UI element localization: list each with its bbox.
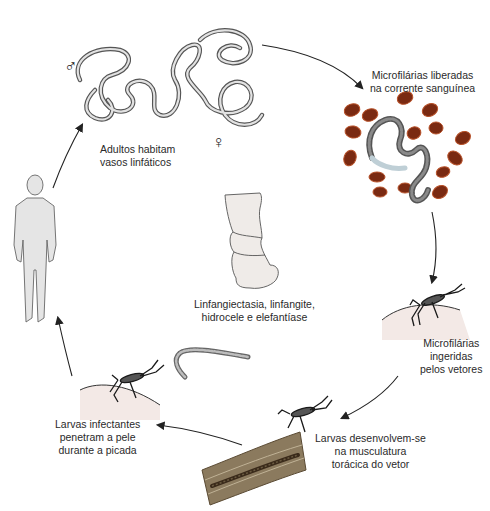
arrow-ingested-to-develop bbox=[342, 376, 398, 418]
red-blood-cells-icon bbox=[342, 90, 473, 202]
skin-with-mosquito-right-icon bbox=[382, 305, 470, 340]
label-larvae-develop: Larvas desenvolvem-se na musculatura tor… bbox=[315, 432, 426, 471]
label-center-pathology: Linfangiectasia, linfangite, hidrocele e… bbox=[194, 298, 315, 324]
elephantiasis-leg-icon bbox=[225, 193, 278, 288]
female-symbol: ♀ bbox=[212, 133, 226, 151]
arrow-adults-to-blood bbox=[262, 45, 362, 88]
label-adults: Adultos habitam vasos linfáticos bbox=[100, 143, 175, 169]
thoracic-muscle-icon bbox=[202, 432, 306, 505]
label-microfilariae-blood: Microfilárias liberadas na corrente sang… bbox=[370, 69, 475, 95]
adult-worms-icon bbox=[78, 30, 262, 124]
infective-larva-icon bbox=[176, 350, 248, 377]
arrow-human-to-adults bbox=[53, 125, 82, 188]
label-ingested: Microfilárias ingeridas pelos vetores bbox=[420, 337, 482, 376]
arrow-blood-to-vector bbox=[432, 212, 436, 282]
arrow-develop-to-penetrate bbox=[158, 425, 242, 445]
skin-with-mosquito-left-icon bbox=[80, 385, 160, 420]
arrow-penetrate-to-human bbox=[58, 318, 72, 376]
mosquito-icon bbox=[278, 396, 332, 432]
label-larvae-penetrate: Larvas infectantes penetram a pele duran… bbox=[55, 418, 140, 457]
male-symbol: ♂ bbox=[64, 57, 78, 75]
human-figure-icon bbox=[14, 175, 56, 322]
filariasis-life-cycle-diagram: ♂ ♀ Adultos habitam vasos linfáticos Mic… bbox=[0, 0, 490, 511]
